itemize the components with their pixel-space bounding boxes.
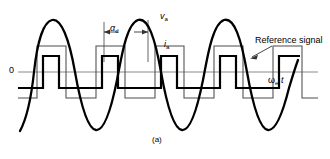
ia-label: ia (164, 40, 169, 49)
alpha-d-label: αd (110, 24, 119, 33)
zero-label: 0 (9, 66, 14, 75)
time-symbol: t (281, 75, 284, 85)
omega-subscript: e (275, 79, 278, 86)
va-label: va (160, 12, 168, 21)
reference-signal-leader (250, 46, 272, 60)
alpha-subscript: d (115, 27, 118, 34)
va-symbol: v (160, 11, 165, 21)
reference-signal-label: Reference signal (255, 36, 323, 45)
alpha-d-right-arrowhead (142, 30, 148, 35)
subfigure-caption: (a) (152, 136, 162, 144)
omega-e-t-label: ωe t (268, 76, 283, 85)
omega-symbol: ω (268, 75, 275, 85)
reference-leader-line (252, 46, 272, 57)
waveform-figure: 0 va ia αd Reference signal ωe t (a) (0, 0, 330, 159)
va-subscript: a (165, 15, 168, 22)
ia-subscript: a (166, 43, 169, 50)
